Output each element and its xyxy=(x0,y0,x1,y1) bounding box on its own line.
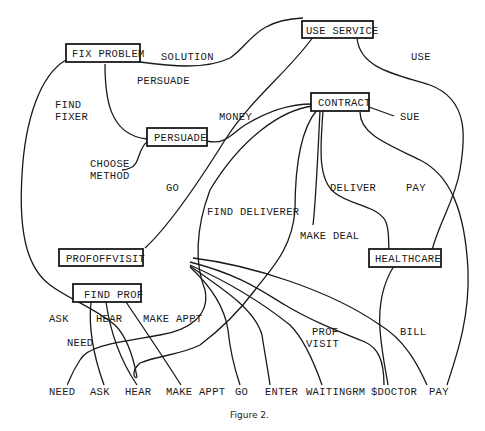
node-persuade: PERSUADE xyxy=(147,128,207,146)
node-use-service: USE SERVICE xyxy=(302,21,379,38)
node-fix-problem: FIX PROBLEM xyxy=(66,44,145,62)
leaf-ask: ASK xyxy=(90,386,110,398)
node-label: PROFOFFVISIT xyxy=(66,253,145,265)
edge-label-make-appt: MAKE APPT xyxy=(143,313,202,325)
edge-label-bill: BILL xyxy=(400,326,426,338)
node-label: HEALTHCARE xyxy=(375,253,441,265)
node-label: CONTRACT xyxy=(318,97,371,109)
node-label: FIX PROBLEM xyxy=(72,48,145,60)
edge-label-choose-method-line2: METHOD xyxy=(90,170,130,182)
edge-label-go: GO xyxy=(166,182,179,194)
node-profoffvisit: PROFOFFVISIT xyxy=(59,249,145,266)
leaf-row: NEED ASK HEAR MAKE APPT GO ENTER WAITING… xyxy=(49,386,449,398)
edge-label-find-fixer-line1: FIND xyxy=(55,99,81,111)
edge-find-deliverer xyxy=(67,106,313,385)
node-label: FIND PROF xyxy=(84,289,143,301)
edge-contract-go-line xyxy=(134,110,317,378)
leaf-doctor: $DOCTOR xyxy=(371,386,418,398)
edge-label-prof-visit-line1: PROF xyxy=(312,326,338,338)
edge-label-prof-visit-line2: VISIT xyxy=(306,338,339,350)
leaf-go: GO xyxy=(235,386,248,398)
leaf-pay: PAY xyxy=(429,386,449,398)
leaf-enter: ENTER xyxy=(265,386,298,398)
edge-label-find-deliverer: FIND DELIVERER xyxy=(207,206,300,218)
edge-label-solution: SOLUTION xyxy=(161,51,214,63)
leaf-make-appt: MAKE APPT xyxy=(166,386,225,398)
edge-label-money: MONEY xyxy=(219,111,252,123)
edge-label-ask: ASK xyxy=(49,313,69,325)
edge-label-persuade: PERSUADE xyxy=(137,75,190,87)
edge-profoffvisit-enter xyxy=(190,266,270,385)
leaf-need: NEED xyxy=(49,386,75,398)
edge-label-find-fixer-line2: FIXER xyxy=(55,111,88,123)
node-label: USE SERVICE xyxy=(306,25,379,37)
edge-label-deliver: DELIVER xyxy=(330,182,377,194)
edge-profoffvisit-waitingrm xyxy=(190,265,322,385)
edge-label-sue: SUE xyxy=(400,111,420,123)
node-find-prof: FIND PROF xyxy=(73,284,143,302)
edge-label-choose-method-line1: CHOOSE xyxy=(90,158,130,170)
edge-contract-make-deal xyxy=(313,111,320,225)
edge-label-need: NEED xyxy=(67,337,93,349)
node-label: PERSUADE xyxy=(154,132,207,144)
edge-contract-deliver xyxy=(321,111,389,249)
node-contract: CONTRACT xyxy=(311,93,371,111)
edge-label-make-deal: MAKE DEAL xyxy=(300,230,359,242)
edge-label-hear: HEAR xyxy=(96,313,123,325)
figure-caption: Figure 2. xyxy=(230,410,269,420)
leaf-waitingrm: WAITINGRM xyxy=(306,386,365,398)
leaf-hear: HEAR xyxy=(125,386,152,398)
script-diagram: FIX PROBLEM USE SERVICE PERSUADE CONTRAC… xyxy=(0,0,485,431)
edge-profoffvisit-go xyxy=(190,267,240,385)
edge-label-use: USE xyxy=(411,51,431,63)
edge-use-service-healthcare xyxy=(357,38,463,250)
edge-contract-sue xyxy=(369,107,394,116)
edge-label-pay: PAY xyxy=(406,182,426,194)
node-healthcare: HEALTHCARE xyxy=(369,249,441,267)
